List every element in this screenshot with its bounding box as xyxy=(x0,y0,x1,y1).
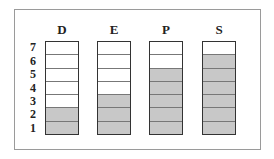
column-label-d: D xyxy=(45,22,79,38)
filled-cell xyxy=(150,107,182,120)
row-label-2: 2 xyxy=(28,108,38,121)
filled-cell xyxy=(203,81,235,94)
filled-cell xyxy=(46,107,78,120)
empty-cell xyxy=(98,68,130,81)
column-e xyxy=(97,41,131,135)
column-label-e: E xyxy=(97,22,131,38)
filled-cell xyxy=(203,54,235,67)
empty-cell xyxy=(203,42,235,54)
filled-cell xyxy=(203,94,235,107)
filled-cell xyxy=(150,81,182,94)
filled-cell xyxy=(150,94,182,107)
empty-cell xyxy=(46,54,78,67)
column-label-s: S xyxy=(202,22,236,38)
empty-cell xyxy=(150,42,182,54)
row-label-7: 7 xyxy=(28,41,38,54)
empty-cell xyxy=(46,42,78,54)
filled-cell xyxy=(203,107,235,120)
empty-cell xyxy=(46,81,78,94)
row-label-5: 5 xyxy=(28,68,38,81)
column-s xyxy=(202,41,236,135)
empty-cell xyxy=(98,42,130,54)
empty-cell xyxy=(150,54,182,67)
column-label-p: P xyxy=(149,22,183,38)
filled-cell xyxy=(203,68,235,81)
filled-cell xyxy=(150,121,182,134)
empty-cell xyxy=(46,68,78,81)
empty-cell xyxy=(98,54,130,67)
row-label-1: 1 xyxy=(28,122,38,135)
column-p xyxy=(149,41,183,135)
filled-cell xyxy=(46,121,78,134)
filled-cell xyxy=(150,68,182,81)
filled-cell xyxy=(98,107,130,120)
filled-cell xyxy=(98,121,130,134)
filled-cell xyxy=(203,121,235,134)
filled-cell xyxy=(98,94,130,107)
column-d xyxy=(45,41,79,135)
empty-cell xyxy=(46,94,78,107)
row-label-4: 4 xyxy=(28,82,38,95)
empty-cell xyxy=(98,81,130,94)
row-label-6: 6 xyxy=(28,55,38,68)
row-label-3: 3 xyxy=(28,95,38,108)
